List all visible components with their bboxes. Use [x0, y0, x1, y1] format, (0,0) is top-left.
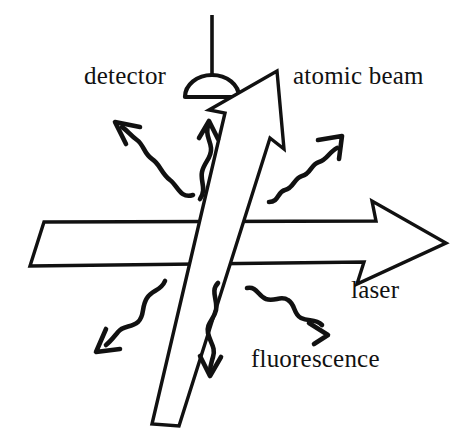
detector-icon [185, 15, 239, 97]
figure-canvas: detector atomic beam laser fluorescence [0, 0, 469, 441]
squiggle-down-right-arrowhead [309, 323, 328, 344]
squiggle-down-right-wave [247, 288, 322, 325]
squiggle-down-right [247, 288, 328, 344]
label-fluorescence: fluorescence [251, 346, 380, 371]
label-detector: detector [84, 63, 166, 88]
squiggle-up-left-wave [122, 127, 193, 196]
label-atomic-beam: atomic beam [293, 63, 424, 88]
detector-dome-icon [185, 75, 239, 97]
squiggle-up-right-wave [269, 148, 337, 202]
label-laser: laser [351, 277, 399, 302]
squiggle-down-left-wave [106, 281, 165, 345]
squiggle-down-left [96, 281, 165, 352]
squiggle-up-left [115, 122, 193, 196]
